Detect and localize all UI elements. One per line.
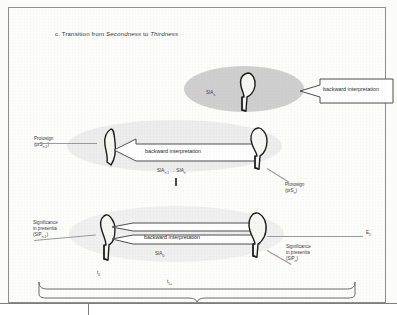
caption-italic-thirdness: Thirdness <box>150 30 178 37</box>
axis-line-e1 <box>267 236 363 237</box>
caption-text-mid: to <box>143 30 148 37</box>
hand-figure-middle-right <box>245 125 273 171</box>
transition-tick <box>175 178 177 186</box>
page-footer-left-cell <box>0 303 89 315</box>
leader-line-middle-left <box>35 143 97 144</box>
arrow-label-top: backward interpretation <box>323 86 379 92</box>
label-top-sia: SIAn <box>206 90 215 98</box>
hand-figure-top <box>233 70 263 114</box>
label-bottom-right-significance: Significance in presentia (SiPn) <box>286 244 336 265</box>
leader-line-middle-right <box>267 168 290 183</box>
caption-italic-secondness: Secondness <box>106 30 141 37</box>
label-bottom-center-sia: SIA0 <box>155 251 164 259</box>
figure-page: c. Transition from Secondness to Thirdne… <box>0 0 397 315</box>
arrow-label-bottom: backward interpretation <box>144 234 200 240</box>
scan-sheet: c. Transition from Secondness to Thirdne… <box>8 7 386 303</box>
arrow-backward-interpretation-bottom: backward interpretation <box>109 220 261 248</box>
label-axis-e1: E1 <box>366 230 371 238</box>
label-middle-right-code: (prSn) <box>285 188 331 196</box>
arrow-backward-interpretation-top: backward interpretation <box>298 78 394 104</box>
label-sia-transition: SIAn-1 → SIAn <box>157 168 186 176</box>
figure-caption: c. Transition from Secondness to Thirdne… <box>55 30 178 37</box>
arrow-label-middle: backward interpretation <box>145 148 201 154</box>
timeline-brace: t1+ <box>37 280 357 302</box>
timeline-brace-label: t1+ <box>167 279 172 286</box>
arrow-backward-interpretation-middle: backward interpretation <box>112 138 260 162</box>
label-middle-right-protosign: Protosign (prSn) <box>285 182 331 196</box>
label-bottom-right-code: (SiPn) <box>286 256 336 264</box>
caption-text-plain: Transition from <box>62 30 105 37</box>
caption-prefix: c. <box>55 30 60 37</box>
label-time-marker-t0: t0 <box>97 270 100 278</box>
